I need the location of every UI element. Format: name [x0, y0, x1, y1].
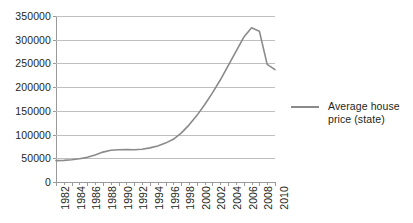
y-axis-tick-label: 350000 [0, 11, 51, 22]
x-axis-tick-minor [205, 182, 206, 185]
x-axis-tick-label: 1986 [91, 186, 102, 210]
x-axis-tick-label: 2000 [201, 186, 212, 210]
series-line-average-house-price [56, 16, 275, 182]
y-axis-labels: 0500001000001500002000002500003000003500… [0, 16, 51, 182]
y-axis-tick-label: 0 [0, 177, 51, 188]
x-axis-tick-minor [267, 182, 268, 185]
x-axis-tick-minor [95, 182, 96, 185]
x-axis-tick-label: 2008 [263, 186, 274, 210]
x-axis-tick-minor [64, 182, 65, 185]
x-axis-tick-label: 1982 [60, 186, 71, 210]
x-axis-labels: 1982198419861988199019921994199619982000… [56, 186, 275, 223]
legend-label-line-1: Average house [328, 100, 400, 113]
x-axis-tick-label: 1994 [154, 186, 165, 210]
x-axis-tick-minor [189, 182, 190, 185]
x-axis-tick-minor [79, 182, 80, 185]
x-axis-tick-minor [173, 182, 174, 185]
series-polyline [56, 28, 275, 161]
x-axis-tick-label: 1996 [170, 186, 181, 210]
y-axis-tick-label: 100000 [0, 130, 51, 141]
y-axis-tick-label: 250000 [0, 58, 51, 69]
line-chart: 0500001000001500002000002500003000003500… [0, 0, 413, 223]
legend: Average house price (state) [291, 100, 400, 126]
x-axis-tick-label: 1984 [76, 186, 87, 210]
x-axis-tick-label: 1998 [185, 186, 196, 210]
x-axis-tick-label: 1990 [123, 186, 134, 210]
x-axis-tick-minor [236, 182, 237, 185]
x-axis-tick-label: 2006 [248, 186, 259, 210]
x-axis-tick-minor [111, 182, 112, 185]
x-axis-tick-label: 1992 [138, 186, 149, 210]
x-axis-tick-label: 2002 [216, 186, 227, 210]
x-axis-tick-major [275, 182, 276, 186]
y-axis-tick-label: 300000 [0, 35, 51, 46]
legend-label-average-house-price: Average house price (state) [328, 100, 400, 126]
x-axis-tick-label: 2010 [279, 186, 290, 210]
legend-swatch-average-house-price [291, 106, 319, 108]
y-axis-tick-label: 150000 [0, 106, 51, 117]
x-axis-tick-minor [252, 182, 253, 185]
y-axis-tick-label: 50000 [0, 153, 51, 164]
x-axis-tick-minor [220, 182, 221, 185]
x-axis-tick-minor [126, 182, 127, 185]
legend-label-line-2: price (state) [328, 113, 400, 126]
y-axis-tick-label: 200000 [0, 82, 51, 93]
x-axis-tick-label: 1988 [107, 186, 118, 210]
x-axis-tick-minor [158, 182, 159, 185]
x-axis-tick-minor [142, 182, 143, 185]
x-axis-tick-label: 2004 [232, 186, 243, 210]
